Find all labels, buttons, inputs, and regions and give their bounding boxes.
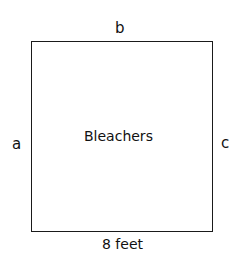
center-label: Bleachers xyxy=(84,129,153,143)
bottom-side-label: 8 feet xyxy=(102,237,143,251)
left-side-label: a xyxy=(12,137,21,152)
top-side-label: b xyxy=(115,21,125,36)
right-side-label: c xyxy=(221,136,229,151)
